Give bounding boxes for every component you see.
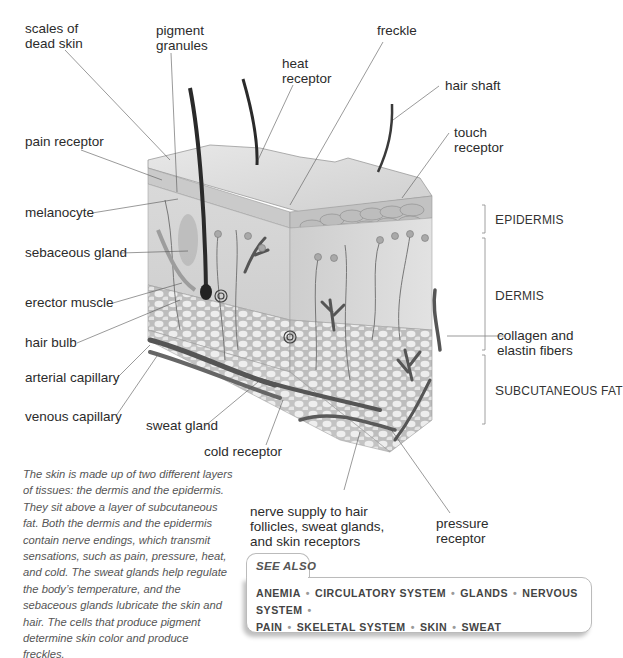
- label-hair-shaft: hair shaft: [445, 78, 501, 93]
- label-touch-receptor: touch receptor: [454, 125, 504, 155]
- label-line: receptor: [282, 71, 332, 86]
- label-line: hair shaft: [445, 78, 501, 93]
- label-melanocyte: melanocyte: [25, 205, 94, 220]
- label-sebaceous-gland: sebaceous gland: [25, 245, 127, 260]
- label-pressure-receptor: pressure receptor: [436, 516, 489, 546]
- layer-rest: ERMIS: [505, 289, 544, 303]
- label-line: hair bulb: [25, 335, 77, 350]
- layer-label-subcutaneous-fat: SUBCUTANEOUS FAT: [495, 383, 623, 398]
- label-line: nerve supply to hair: [250, 504, 384, 519]
- bullet-separator: •: [452, 621, 456, 633]
- label-hair-bulb: hair bulb: [25, 335, 77, 350]
- see-also-link-glands[interactable]: GLANDS: [460, 587, 508, 599]
- label-line: follicles, sweat glands,: [250, 519, 384, 534]
- label-line: sweat gland: [146, 418, 218, 433]
- bullet-separator: •: [411, 621, 415, 633]
- label-line: pain receptor: [25, 134, 104, 149]
- bullet-separator: •: [308, 604, 312, 616]
- label-line: collagen and: [497, 328, 574, 343]
- see-also-box: SEE ALSO ANEMIA•CIRCULATORY SYSTEM•GLAND…: [246, 577, 592, 633]
- label-line: elastin fibers: [497, 343, 574, 358]
- see-also-links: ANEMIA•CIRCULATORY SYSTEM•GLANDS•NERVOUS…: [256, 585, 584, 636]
- bullet-separator: •: [288, 621, 292, 633]
- see-also-link-sweat[interactable]: SWEAT: [461, 621, 501, 633]
- label-line: freckle: [377, 23, 417, 38]
- see-also-link-pain[interactable]: PAIN: [256, 621, 283, 633]
- label-line: receptor: [454, 140, 504, 155]
- layer-initial: S: [495, 383, 504, 398]
- label-pain-receptor: pain receptor: [25, 134, 104, 149]
- layer-initial: D: [495, 288, 505, 303]
- label-erector-muscle: erector muscle: [25, 295, 114, 310]
- layer-label-epidermis: EPIDERMIS: [495, 212, 564, 227]
- label-line: erector muscle: [25, 295, 114, 310]
- label-line: venous capillary: [25, 409, 122, 424]
- label-scales-of-dead-skin: scales of dead skin: [25, 21, 83, 51]
- bullet-separator: •: [306, 587, 310, 599]
- label-line: pressure: [436, 516, 489, 531]
- label-collagen-elastin-fibers: collagen and elastin fibers: [497, 328, 574, 358]
- label-line: touch: [454, 125, 504, 140]
- bullet-separator: •: [451, 587, 455, 599]
- see-also-link-anemia[interactable]: ANEMIA: [256, 587, 301, 599]
- caption-text: The skin is made up of two different lay…: [23, 466, 233, 658]
- label-line: granules: [156, 38, 208, 53]
- label-pigment-granules: pigment granules: [156, 23, 208, 53]
- see-also-title: SEE ALSO: [256, 560, 316, 572]
- layer-rest: UBCUTANEOUS FAT: [504, 384, 623, 398]
- label-venous-capillary: venous capillary: [25, 409, 122, 424]
- layer-initial: E: [495, 212, 504, 227]
- label-line: dead skin: [25, 36, 83, 51]
- label-line: scales of: [25, 21, 83, 36]
- label-line: melanocyte: [25, 205, 94, 220]
- bullet-separator: •: [513, 587, 517, 599]
- layer-rest: PIDERMIS: [504, 213, 564, 227]
- label-line: pigment: [156, 23, 208, 38]
- label-line: cold receptor: [204, 444, 282, 459]
- see-also-link-circulatory-system[interactable]: CIRCULATORY SYSTEM: [315, 587, 446, 599]
- label-freckle: freckle: [377, 23, 417, 38]
- label-sweat-gland: sweat gland: [146, 418, 218, 433]
- label-line: heat: [282, 56, 332, 71]
- label-line: receptor: [436, 531, 489, 546]
- layer-label-dermis: DERMIS: [495, 288, 544, 303]
- see-also-link-skin[interactable]: SKIN: [420, 621, 447, 633]
- see-also-link-skeletal-system[interactable]: SKELETAL SYSTEM: [297, 621, 406, 633]
- label-arterial-capillary: arterial capillary: [25, 370, 120, 385]
- tab-join: [247, 576, 308, 580]
- label-line: sebaceous gland: [25, 245, 127, 260]
- label-line: and skin receptors: [250, 534, 384, 549]
- label-line: arterial capillary: [25, 370, 120, 385]
- label-cold-receptor: cold receptor: [204, 444, 282, 459]
- label-heat-receptor: heat receptor: [282, 56, 332, 86]
- label-nerve-supply: nerve supply to hair follicles, sweat gl…: [250, 504, 384, 549]
